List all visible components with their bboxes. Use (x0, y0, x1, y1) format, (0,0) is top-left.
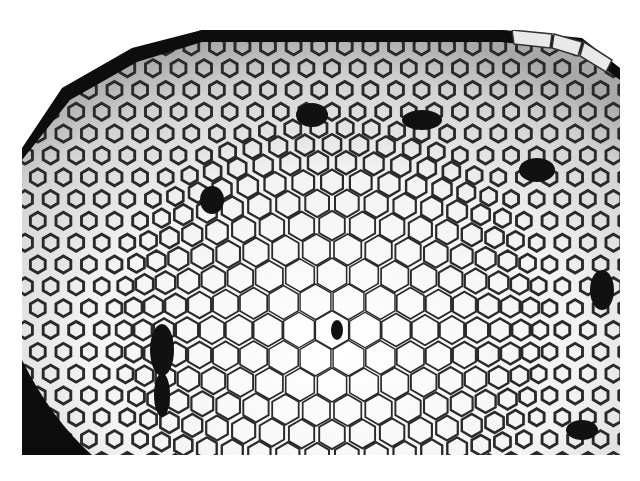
micrograph-image: Grayscale micrograph of a domed hexagona… (22, 30, 620, 455)
hexagon-cell-network (22, 30, 620, 455)
